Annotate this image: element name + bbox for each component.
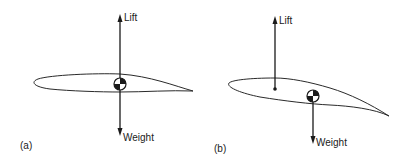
lift-label: Lift	[279, 15, 293, 26]
panel-b: Lift Weight (b)	[214, 15, 389, 154]
panel-caption: (a)	[20, 140, 32, 151]
lift-arrow-icon	[273, 16, 278, 91]
weight-label: Weight	[123, 132, 154, 143]
center-of-gravity-icon	[307, 90, 319, 102]
panel-a: Lift Weight (a)	[20, 12, 193, 151]
weight-arrow-icon	[311, 100, 316, 144]
lift-arrow-icon	[118, 14, 123, 80]
lift-label: Lift	[124, 12, 138, 23]
weight-label: Weight	[316, 137, 347, 148]
weight-arrow-icon	[118, 88, 123, 136]
panel-caption: (b)	[214, 143, 226, 154]
airfoil-forces-diagram: Lift Weight (a) Lift Weight (b)	[0, 0, 413, 167]
center-of-gravity-icon	[114, 78, 126, 90]
